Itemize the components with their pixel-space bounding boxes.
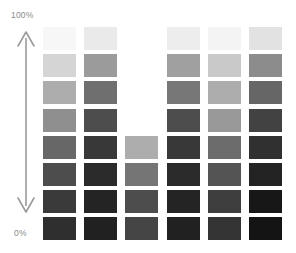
swatch-column	[84, 27, 117, 245]
axis-label-max: 100%	[11, 10, 34, 20]
swatch-cell	[84, 27, 117, 50]
swatch-column	[208, 27, 241, 245]
swatch-cell	[125, 190, 158, 213]
swatch-cell	[43, 190, 76, 213]
swatch-cell	[208, 109, 241, 132]
swatch-cell	[208, 81, 241, 104]
swatch-cell	[167, 217, 200, 240]
swatch-cell	[208, 217, 241, 240]
swatch-column	[125, 27, 158, 245]
swatch-cell	[249, 109, 282, 132]
swatch-column	[43, 27, 76, 245]
swatch-cell	[84, 109, 117, 132]
swatch-column	[249, 27, 282, 245]
double-arrow-icon	[12, 24, 40, 220]
swatch-cell	[167, 27, 200, 50]
swatch-cell	[125, 163, 158, 186]
swatch-cell	[43, 136, 76, 159]
swatch-cell-empty	[125, 81, 158, 104]
swatch-cell	[125, 217, 158, 240]
swatch-cell	[84, 136, 117, 159]
swatch-cell	[249, 27, 282, 50]
swatch-cell	[167, 136, 200, 159]
swatch-cell	[167, 109, 200, 132]
swatch-cell	[208, 136, 241, 159]
swatch-cell	[167, 81, 200, 104]
swatch-cell	[249, 81, 282, 104]
swatch-cell	[84, 163, 117, 186]
swatch-cell	[249, 190, 282, 213]
swatch-cell	[208, 190, 241, 213]
swatch-cell	[43, 163, 76, 186]
swatch-cell	[43, 109, 76, 132]
swatch-cell	[167, 54, 200, 77]
swatch-cell	[84, 190, 117, 213]
swatch-cell	[43, 217, 76, 240]
swatch-cell-empty	[125, 54, 158, 77]
swatch-cell	[208, 27, 241, 50]
swatch-cell	[84, 81, 117, 104]
swatch-cell	[167, 190, 200, 213]
swatch-cell	[125, 136, 158, 159]
axis-label-min: 0%	[14, 228, 27, 238]
swatch-cell	[249, 217, 282, 240]
swatch-cell	[167, 163, 200, 186]
swatch-cell	[84, 217, 117, 240]
swatch-cell	[249, 54, 282, 77]
swatch-cell	[249, 136, 282, 159]
swatch-cell-empty	[125, 109, 158, 132]
swatch-grid	[43, 27, 291, 245]
grayscale-density-chart: 100% 0%	[0, 0, 296, 253]
swatch-cell	[249, 163, 282, 186]
swatch-cell	[84, 54, 117, 77]
swatch-cell	[43, 54, 76, 77]
swatch-cell-empty	[125, 27, 158, 50]
swatch-cell	[208, 163, 241, 186]
swatch-cell	[43, 27, 76, 50]
swatch-cell	[43, 81, 76, 104]
swatch-cell	[208, 54, 241, 77]
swatch-column	[167, 27, 200, 245]
